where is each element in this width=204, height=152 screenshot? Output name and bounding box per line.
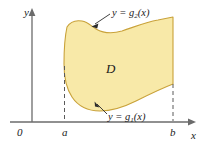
lower-curve-label-subscript: 1 [130, 116, 134, 124]
origin-label: 0 [17, 127, 23, 138]
lower-curve-label: y = g1(x) [108, 112, 145, 123]
lower-curve-label-prefix: y = g [108, 111, 130, 122]
x-axis-arrow-icon [188, 119, 196, 126]
x-axis-label: x [191, 130, 196, 141]
lower-curve-label-suffix: (x) [134, 111, 146, 122]
upper-curve-label-prefix: y = g [112, 7, 134, 18]
y-axis-label: y [24, 7, 29, 18]
upper-curve-label-subscript: 2 [134, 12, 138, 20]
y-axis-arrow-icon [29, 8, 36, 16]
region-label-d: D [106, 62, 115, 75]
upper-curve-label: y = g2(x) [112, 8, 149, 19]
tick-label-b: b [170, 127, 176, 138]
leader-line-g2 [95, 14, 110, 24]
upper-curve-label-suffix: (x) [138, 7, 150, 18]
region-d-shape [64, 17, 173, 111]
tick-label-a: a [62, 127, 68, 138]
figure-canvas: y x 0 a b D y = g2(x) y = g1(x) [0, 0, 204, 152]
